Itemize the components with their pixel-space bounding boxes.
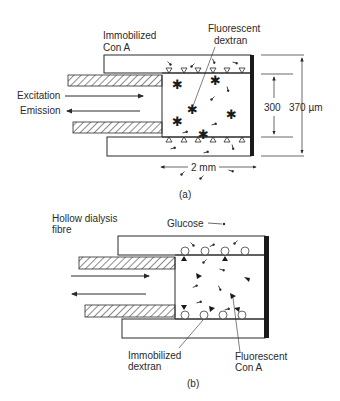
membrane-wall-bottom [122,319,265,338]
fibre-cladding-top [68,75,162,86]
svg-text:✱: ✱ [172,114,183,129]
label-fluorescent-con-a-2: Con A [235,362,263,373]
fibre-cladding-bottom [85,305,175,317]
label-emission: Emission [20,105,61,116]
svg-text:✱: ✱ [198,127,209,142]
membrane-wall-bottom [107,137,251,156]
svg-text:✱: ✱ [187,102,198,117]
fluorescent-con-a-molecules [181,256,250,312]
label-immobilized-dextran-2: dextran [128,361,161,372]
panel-b: Hollow dialysis fibre Glucose [52,213,287,389]
end-cap [264,236,269,338]
label-immobilized-dextran-1: Immobilized [128,350,181,361]
fluorescent-dextran-molecules: ✱ ✱ ✱ ✱ ✱ ✱ [172,73,237,142]
dimension-length: 2 mm [191,162,216,173]
label-fluorescent-dextran-2: dextran [214,35,247,46]
panel-a: Immobilized Con A Fluorescent dextran Ex… [17,23,323,200]
label-immobilized-con-a-2: Con A [103,42,131,53]
caption-a: (a) [179,189,191,200]
label-hollow-dialysis-fibre-1: Hollow dialysis [52,213,118,224]
leader-line-dextran [179,320,203,348]
end-cap [250,55,254,156]
dimension-inner-diameter: 300 [264,102,281,113]
label-fluorescent-dextran-1: Fluorescent [208,23,260,34]
svg-text:✱: ✱ [172,77,183,92]
sensor-diagram: Immobilized Con A Fluorescent dextran Ex… [0,0,340,401]
fibre-cladding-top [79,257,175,269]
svg-text:✱: ✱ [226,107,237,122]
label-immobilized-con-a-1: Immobilized [103,30,156,41]
caption-b: (b) [187,378,199,389]
leader-line-con-a [233,298,240,352]
label-glucose: Glucose [167,218,204,229]
dimension-outer-diameter: 370 µm [289,102,323,113]
label-fluorescent-con-a-1: Fluorescent [235,351,287,362]
fibre-cladding-bottom [73,122,162,133]
label-excitation: Excitation [17,90,60,101]
svg-text:✱: ✱ [210,73,221,88]
label-hollow-dialysis-fibre-2: fibre [52,224,72,235]
